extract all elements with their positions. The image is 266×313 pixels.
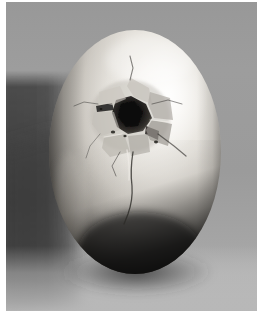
border-right <box>257 0 266 313</box>
photograph-frame: Grayscale photograph of a cracked egg wi… <box>0 0 266 313</box>
photo-image-area <box>0 0 266 313</box>
border-top <box>0 0 266 2</box>
cracked-egg-photograph <box>0 0 266 313</box>
border-left <box>0 0 6 313</box>
